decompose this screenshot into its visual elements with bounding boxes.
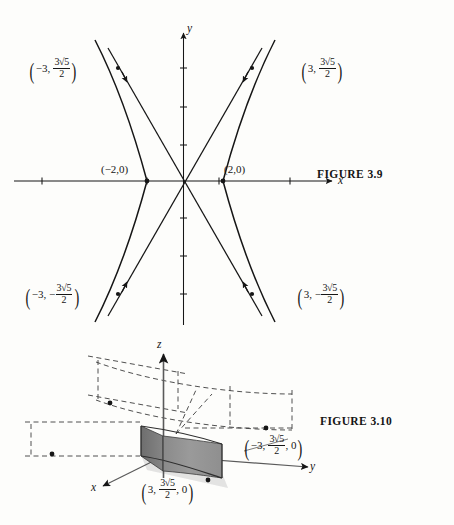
paren-open: ( xyxy=(25,286,30,309)
minus-sign: − xyxy=(315,288,321,300)
paren-open: ( xyxy=(301,60,306,83)
z-axis-label: z xyxy=(157,338,161,350)
point-label-top-right-x: 3, xyxy=(308,62,316,74)
vertex-label-left: (−2,0) xyxy=(101,163,128,175)
paren-open: ( xyxy=(244,437,249,460)
figure-3-9: x y (−2,0) (2,0) (−3, 3√52) (3, 3√52) (−… xyxy=(0,0,454,340)
upper-far-top-edge xyxy=(88,356,188,374)
paren-open: ( xyxy=(297,286,302,309)
vertex-right-dot xyxy=(221,179,226,184)
figure-3-10-caption: FIGURE 3.10 xyxy=(320,415,392,427)
y-axis-label: y xyxy=(187,22,192,34)
minus-sign: − xyxy=(49,288,55,300)
point-bottom-left-dot xyxy=(116,292,120,296)
point-label-3d-right: (−3, 3√52, 0) xyxy=(243,434,304,460)
point-label-bottom-right: (3, −3√52) xyxy=(296,283,346,309)
paren-open: ( xyxy=(29,60,34,83)
point-right-dot xyxy=(264,426,269,431)
paren-open: ( xyxy=(141,481,146,504)
asymptote-lines xyxy=(108,48,262,316)
paren-close: ) xyxy=(340,286,345,309)
hyperbolic-cylinder-plot xyxy=(0,338,454,525)
point-top-right-dot xyxy=(250,66,254,70)
fraction: 3√52 xyxy=(319,57,336,79)
paren-close: ) xyxy=(74,286,79,309)
fraction: 3√52 xyxy=(159,478,176,500)
x-axis-label-3d: x xyxy=(91,481,96,493)
surface-front-panel xyxy=(163,436,222,478)
point-bottom-dot xyxy=(206,478,211,483)
vertex-left-dot xyxy=(145,179,150,184)
vertex-label-right: (2,0) xyxy=(224,163,245,175)
paren-close: ) xyxy=(72,60,77,83)
fraction: 3√52 xyxy=(268,434,285,456)
fraction: 3√52 xyxy=(53,57,70,79)
point-label-top-left: (−3, 3√52) xyxy=(28,57,78,83)
point-label-bottom-right-x: 3, xyxy=(304,288,312,300)
upper-hyperbola-arc xyxy=(96,362,292,394)
point-label-top-left-x: −3, xyxy=(36,62,50,74)
y-axis-label-3d: y xyxy=(310,460,315,472)
point-label-bottom-left-x: −3, xyxy=(32,288,46,300)
origin-connector-b xyxy=(176,390,196,434)
upper-far-bottom-edge xyxy=(88,395,188,413)
x-axis xyxy=(14,178,332,185)
lower-hyperbola-arc xyxy=(96,400,292,430)
paren-close: ) xyxy=(189,481,194,504)
point-label-bottom-left: (−3, −3√52) xyxy=(24,283,80,309)
construction-dot-lower xyxy=(50,452,55,457)
paren-close: ) xyxy=(338,60,343,83)
point-top-left-dot xyxy=(116,66,120,70)
textbook-page: x y (−2,0) (2,0) (−3, 3√52) (3, 3√52) (−… xyxy=(0,0,454,525)
fraction: 3√52 xyxy=(321,283,338,305)
point-label-3d-bottom: (3, 3√52, 0) xyxy=(140,478,195,504)
fraction: 3√52 xyxy=(56,283,73,305)
paren-close: ) xyxy=(298,437,303,460)
point-bottom-right-dot xyxy=(250,292,254,296)
figure-3-10: z y x (−3, 3√52, 0) (3, 3√52, 0) xyxy=(0,338,454,525)
figure-3-9-caption: FIGURE 3.9 xyxy=(317,168,383,180)
point-label-top-right: (3, 3√52) xyxy=(300,57,344,83)
construction-dot-upper xyxy=(108,401,113,406)
